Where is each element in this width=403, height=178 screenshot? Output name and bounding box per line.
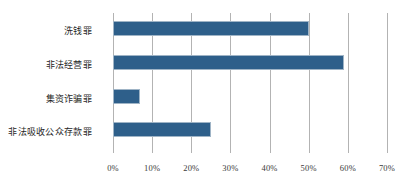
bar-row: 非法吸收公众存款罪 [113,114,387,148]
tick-mark-60 [348,148,349,153]
plot-area: 0% 10% 20% 30% 40% 50% 60% 70% 洗钱罪 非法经营罪… [113,13,387,148]
tick-mark-0 [113,148,114,153]
x-tick-label: 10% [144,163,160,173]
tick-mark-40 [270,148,271,153]
bar [113,55,344,70]
tick-mark-70 [387,148,388,153]
tick-mark-30 [230,148,231,153]
x-tick-label: 70% [379,163,395,173]
x-tick-label: 30% [222,163,238,173]
bar-row: 洗钱罪 [113,13,387,47]
x-tick-label: 50% [301,163,317,173]
bar-row: 集资诈骗罪 [113,81,387,115]
bar [113,21,309,36]
tick-mark-50 [309,148,310,153]
x-tick-label: 20% [183,163,199,173]
tick-mark-10 [152,148,153,153]
bar [113,122,211,137]
category-label: 非法吸收公众存款罪 [8,125,92,138]
bar-chart: 0% 10% 20% 30% 40% 50% 60% 70% 洗钱罪 非法经营罪… [0,0,403,178]
bar [113,89,140,104]
x-tick-label: 60% [340,163,356,173]
category-label: 集资诈骗罪 [46,92,93,105]
gridline-70 [387,13,388,148]
x-tick-label: 0% [107,163,119,173]
tick-mark-20 [191,148,192,153]
category-label: 非法经营罪 [46,58,93,71]
category-label: 洗钱罪 [64,24,92,37]
x-tick-label: 40% [261,163,277,173]
bar-row: 非法经营罪 [113,47,387,81]
